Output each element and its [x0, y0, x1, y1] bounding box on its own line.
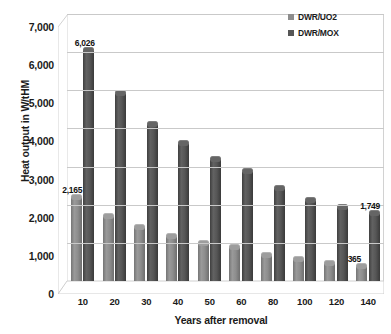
bar-top: [274, 185, 285, 191]
gridline: [67, 90, 384, 91]
y-axis-tick: 4,000: [12, 135, 54, 147]
bar-group: [321, 14, 353, 281]
x-axis-tick-50: 50: [205, 296, 215, 307]
bar-uo2-50[interactable]: [198, 240, 209, 281]
bar-uo2-140[interactable]: [356, 263, 367, 281]
y-axis-tick: 7,000: [12, 21, 54, 33]
gridline: [67, 243, 384, 244]
bar-uo2-120[interactable]: [324, 260, 335, 281]
x-axis-title: Years after removal: [58, 314, 384, 326]
y-axis-tick: 5,000: [12, 97, 54, 109]
gridline: [67, 167, 384, 168]
bar-top: [242, 168, 253, 174]
bars-layer: [67, 14, 384, 281]
plot-area: 2,1656,0263651,749: [58, 14, 384, 294]
bar-uo2-20[interactable]: [103, 213, 114, 281]
legend-item-mox[interactable]: DWR/MOX: [288, 28, 374, 38]
bar-group: [130, 14, 162, 281]
data-label-uo2-10: 2,165: [62, 185, 82, 195]
bar-group: [194, 14, 226, 281]
legend-item-uo2[interactable]: DWR/UO2: [288, 12, 374, 22]
data-label-uo2-140: 365: [348, 254, 361, 264]
bar-top: [166, 233, 177, 239]
bar-mox-50[interactable]: [210, 156, 221, 281]
x-axis-tick-140: 140: [361, 296, 376, 307]
bar-group: [289, 14, 321, 281]
bar-face: [210, 160, 221, 281]
bar-face: [305, 201, 316, 281]
bar-face: [242, 172, 253, 281]
gridline: [67, 52, 384, 53]
bar-face: [178, 144, 189, 281]
x-axis-tick-120: 120: [329, 296, 344, 307]
x-axis-tick-40: 40: [173, 296, 183, 307]
bar-top: [293, 256, 304, 262]
bar-uo2-80[interactable]: [261, 252, 272, 281]
chart-legend: DWR/UO2DWR/MOX: [288, 12, 374, 44]
gridline: [67, 205, 384, 206]
bar-face: [229, 248, 240, 281]
bar-group: [162, 14, 194, 281]
bar-mox-10[interactable]: [83, 47, 94, 281]
bar-mox-140[interactable]: [369, 210, 380, 281]
y-axis-tick: 3,000: [12, 174, 54, 186]
bar-group: [226, 14, 258, 281]
bar-top: [134, 224, 145, 230]
bar-uo2-30[interactable]: [134, 224, 145, 281]
legend-label: DWR/UO2: [298, 12, 337, 22]
legend-swatch-icon: [288, 30, 294, 36]
bar-mox-40[interactable]: [178, 140, 189, 281]
x-axis-tick-labels: 10203040506080100120140: [58, 296, 384, 312]
gridline: [67, 128, 384, 129]
bar-face: [261, 256, 272, 281]
bar-top: [229, 244, 240, 250]
bar-mox-30[interactable]: [147, 121, 158, 281]
bar-chart: Heat output in W/tHM 01,0002,0003,0004,0…: [0, 0, 391, 334]
bar-face: [274, 189, 285, 281]
bar-top: [261, 252, 272, 258]
bar-face: [103, 217, 114, 281]
x-axis-tick-80: 80: [268, 296, 278, 307]
x-axis-tick-100: 100: [297, 296, 312, 307]
bar-top: [147, 121, 158, 127]
legend-swatch-icon: [288, 14, 294, 20]
bar-top: [103, 213, 114, 219]
bar-uo2-10[interactable]: [71, 194, 82, 281]
bar-group: [67, 14, 99, 281]
y-axis-tick: 0: [12, 288, 54, 300]
y-axis-tick: 6,000: [12, 59, 54, 71]
plot-floor: [58, 279, 384, 294]
bar-face: [369, 214, 380, 281]
bar-mox-80[interactable]: [274, 185, 285, 281]
bar-group: [99, 14, 131, 281]
bar-uo2-60[interactable]: [229, 244, 240, 281]
bar-mox-100[interactable]: [305, 197, 316, 281]
bar-top: [210, 156, 221, 162]
x-axis-tick-20: 20: [109, 296, 119, 307]
bar-face: [134, 228, 145, 281]
y-axis-tick: 1,000: [12, 250, 54, 262]
bar-face: [293, 260, 304, 281]
bar-face: [356, 267, 367, 281]
bar-face: [324, 264, 335, 281]
bar-face: [147, 125, 158, 281]
x-axis-tick-30: 30: [141, 296, 151, 307]
data-label-mox-140: 1,749: [360, 201, 380, 211]
bar-face: [198, 244, 209, 281]
bar-top: [305, 197, 316, 203]
legend-label: DWR/MOX: [298, 28, 339, 38]
y-axis-tick-labels: 01,0002,0003,0004,0005,0006,0007,000: [12, 0, 54, 334]
bar-face: [71, 198, 82, 281]
bar-mox-20[interactable]: [115, 90, 126, 281]
bar-top: [324, 260, 335, 266]
data-label-mox-10: 6,026: [75, 38, 95, 48]
bar-face: [337, 208, 348, 281]
bar-group: [352, 14, 384, 281]
bar-uo2-40[interactable]: [166, 233, 177, 281]
bar-face: [115, 94, 126, 281]
bar-uo2-100[interactable]: [293, 256, 304, 281]
y-axis-tick: 2,000: [12, 212, 54, 224]
x-axis-tick-60: 60: [236, 296, 246, 307]
bar-mox-60[interactable]: [242, 168, 253, 281]
bar-group: [257, 14, 289, 281]
